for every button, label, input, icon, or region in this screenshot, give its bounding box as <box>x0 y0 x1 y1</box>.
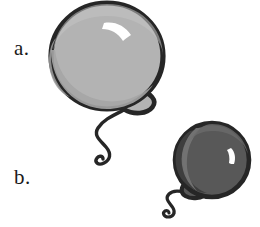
balloon-a-group <box>49 3 163 164</box>
balloon-a-string <box>96 110 124 164</box>
figure-label-a: a. <box>14 38 30 59</box>
figure-label-b: b. <box>14 167 31 188</box>
balloon-illustration <box>0 0 260 227</box>
balloon-figure: a. b. <box>0 0 260 227</box>
balloon-b-group <box>164 123 249 217</box>
